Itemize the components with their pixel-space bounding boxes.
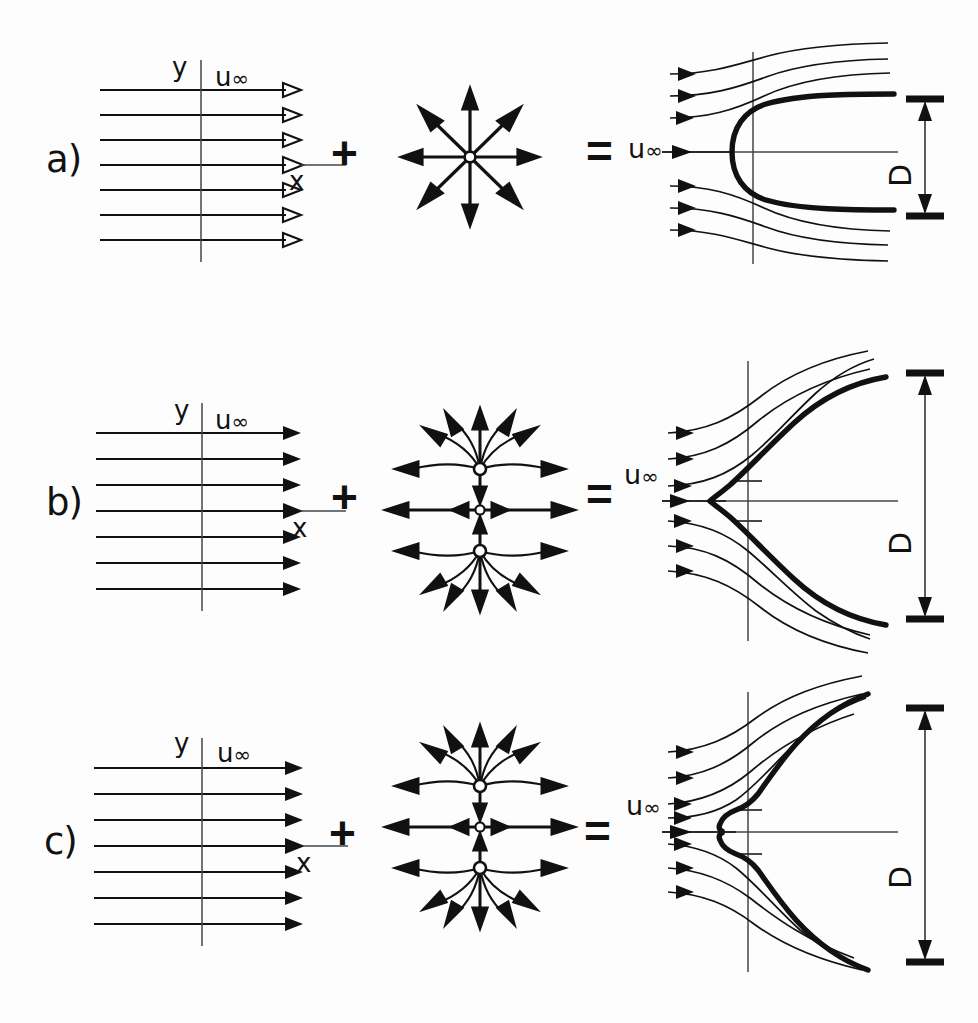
source-point-lower-c <box>474 862 486 874</box>
source-panel-c <box>372 718 587 933</box>
dimension-group-b <box>900 369 950 629</box>
result-streamlines-c <box>662 676 866 970</box>
source-point-lower-b <box>474 545 486 557</box>
source-point-upper-c <box>474 780 486 792</box>
y-axis-label-c: y <box>174 728 189 758</box>
result-streamlines-b <box>662 351 874 653</box>
result-velocity-label-b: u∞ <box>624 459 659 490</box>
result-velocity-subscript-a: ∞ <box>645 139 663 163</box>
dim-arrow-top-b <box>918 375 932 395</box>
uniform-streamlines-c <box>94 761 305 931</box>
uniform-streamlines-b <box>96 426 303 596</box>
source-panel-a <box>392 85 552 235</box>
result-velocity-symbol-c: u <box>626 790 643 821</box>
operator-equals-c: = <box>584 808 611 854</box>
row-label-c: c) <box>44 820 77 863</box>
figure-canvas: a) y u∞ x + <box>0 0 978 1023</box>
row-label-a: a) <box>46 138 81 181</box>
velocity-label-b: u∞ <box>215 405 249 435</box>
dim-arrow-bottom-c <box>918 940 932 960</box>
operator-plus-c: + <box>329 810 356 856</box>
dimension-label-a: D <box>883 158 918 194</box>
result-velocity-subscript-b: ∞ <box>641 465 659 489</box>
velocity-subscript-a: ∞ <box>231 67 249 91</box>
x-axis-label-b: x <box>292 513 307 543</box>
result-velocity-symbol-a: u <box>628 133 645 164</box>
result-arrowheads-b <box>670 426 694 578</box>
dim-arrow-top-a <box>918 101 932 121</box>
result-panel-c <box>640 692 930 992</box>
result-velocity-subscript-c: ∞ <box>643 796 661 820</box>
result-velocity-symbol-b: u <box>624 459 641 490</box>
dim-arrow-bottom-b <box>918 597 932 617</box>
velocity-subscript-b: ∞ <box>231 410 249 434</box>
operator-plus-b: + <box>331 474 358 520</box>
x-axis-label-a: x <box>289 166 304 196</box>
y-axis-label-a: y <box>172 52 187 82</box>
figure-row-a: a) y u∞ x + <box>0 0 978 341</box>
center-point-c <box>475 822 484 831</box>
result-velocity-label-a: u∞ <box>628 133 663 164</box>
velocity-symbol-c: u <box>217 738 233 768</box>
source-point-a <box>465 152 476 163</box>
center-point-b <box>475 505 484 514</box>
dimension-label-b: D <box>883 524 918 564</box>
result-panel-b <box>640 361 930 661</box>
velocity-symbol-a: u <box>215 62 231 92</box>
operator-plus-a: + <box>331 130 358 176</box>
dimension-group-c <box>900 704 950 974</box>
figure-row-c: c) y u∞ x + <box>0 682 978 1023</box>
operator-equals-a: = <box>586 128 613 174</box>
velocity-label-a: u∞ <box>215 62 249 92</box>
velocity-symbol-b: u <box>215 405 231 435</box>
y-axis-label-b: y <box>174 395 189 425</box>
velocity-label-c: u∞ <box>217 738 251 768</box>
figure-row-b: b) y u∞ x + <box>0 341 978 682</box>
dim-arrow-top-c <box>918 710 932 730</box>
dim-arrow-bottom-a <box>918 194 932 214</box>
operator-equals-b: = <box>586 471 613 517</box>
row-label-b: b) <box>46 481 82 524</box>
velocity-subscript-c: ∞ <box>233 743 251 767</box>
x-axis-label-c: x <box>296 848 311 878</box>
source-rays-a <box>402 89 538 225</box>
source-point-upper-b <box>474 463 486 475</box>
dimension-label-c: D <box>883 858 918 898</box>
result-velocity-label-c: u∞ <box>626 790 661 821</box>
result-arrowheads-c <box>670 745 694 899</box>
source-panel-b <box>372 401 587 616</box>
